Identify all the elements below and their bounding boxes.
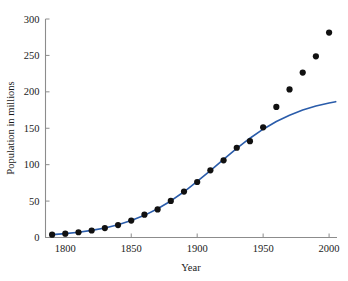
y-tick-label: 250 bbox=[24, 50, 40, 61]
data-point bbox=[168, 198, 174, 204]
y-tick-label: 0 bbox=[34, 232, 39, 243]
data-point bbox=[89, 227, 95, 233]
y-tick-label: 150 bbox=[24, 123, 40, 134]
data-point bbox=[286, 86, 292, 92]
data-point bbox=[207, 167, 213, 173]
data-point bbox=[273, 104, 279, 110]
y-tick-label: 300 bbox=[24, 14, 40, 25]
data-point bbox=[102, 225, 108, 231]
data-point bbox=[234, 145, 240, 151]
x-tick-label: 1950 bbox=[253, 243, 274, 254]
x-tick-label: 1800 bbox=[55, 243, 76, 254]
chart-canvas: 050100150200250300 18001850190019502000 … bbox=[0, 0, 348, 281]
population-chart-figure: 050100150200250300 18001850190019502000 … bbox=[0, 0, 348, 281]
data-point bbox=[115, 222, 121, 228]
data-point bbox=[220, 157, 226, 163]
data-point bbox=[313, 53, 319, 59]
y-tick-label: 100 bbox=[24, 159, 40, 170]
data-point bbox=[247, 138, 253, 144]
x-tick-label: 1900 bbox=[187, 243, 208, 254]
data-point bbox=[326, 29, 332, 35]
data-point bbox=[155, 206, 161, 212]
data-point bbox=[75, 229, 81, 235]
y-axis-title: Population in millions bbox=[5, 81, 16, 174]
data-point bbox=[141, 212, 147, 218]
x-tick-label: 2000 bbox=[319, 243, 340, 254]
data-point bbox=[194, 179, 200, 185]
data-point bbox=[62, 231, 68, 237]
data-point bbox=[128, 218, 134, 224]
data-point bbox=[49, 232, 55, 238]
data-point bbox=[181, 189, 187, 195]
y-tick-label: 50 bbox=[29, 196, 40, 207]
x-axis-title: Year bbox=[181, 262, 201, 273]
data-point bbox=[260, 124, 266, 130]
y-tick-label: 200 bbox=[24, 86, 40, 97]
data-point bbox=[300, 69, 306, 75]
chart-background bbox=[0, 0, 348, 281]
x-tick-label: 1850 bbox=[121, 243, 142, 254]
